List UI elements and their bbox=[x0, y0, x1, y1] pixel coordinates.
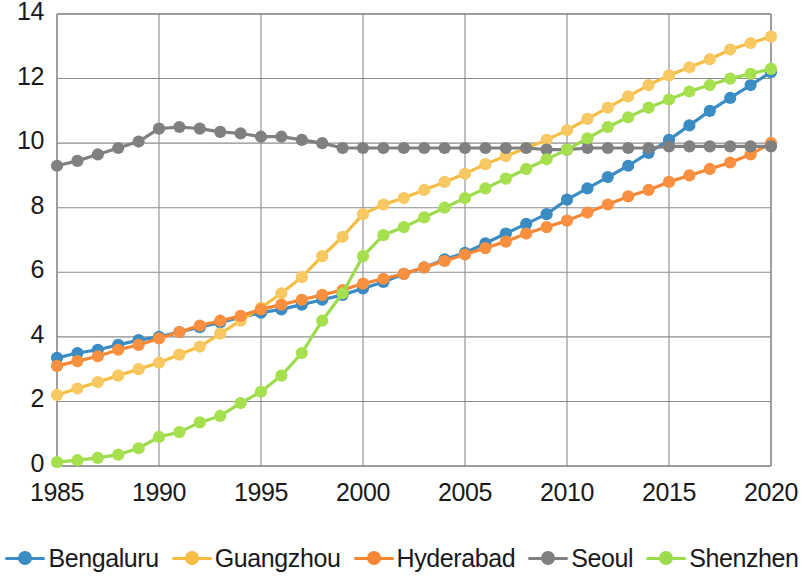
data-point bbox=[377, 229, 389, 241]
data-point bbox=[153, 123, 165, 135]
legend-label: Bengaluru bbox=[48, 544, 158, 573]
legend-item-seoul[interactable]: Seoul bbox=[528, 544, 633, 573]
data-point bbox=[643, 142, 655, 154]
y-tick-label: 0 bbox=[0, 449, 44, 478]
data-point bbox=[418, 261, 430, 273]
legend-item-shenzhen[interactable]: Shenzhen bbox=[646, 544, 798, 573]
data-point bbox=[459, 142, 471, 154]
data-point bbox=[51, 389, 63, 401]
data-point bbox=[745, 79, 757, 91]
data-point bbox=[602, 198, 614, 210]
data-point bbox=[541, 221, 553, 233]
data-point bbox=[51, 456, 63, 468]
data-point bbox=[275, 370, 287, 382]
data-point bbox=[765, 140, 777, 152]
data-point bbox=[153, 332, 165, 344]
data-point bbox=[520, 163, 532, 175]
series-line bbox=[57, 72, 771, 358]
data-point bbox=[377, 273, 389, 285]
data-point bbox=[377, 142, 389, 154]
data-point bbox=[418, 142, 430, 154]
data-point bbox=[194, 416, 206, 428]
legend-dot bbox=[659, 551, 673, 565]
data-point bbox=[479, 158, 491, 170]
data-point bbox=[765, 63, 777, 75]
data-point bbox=[173, 349, 185, 361]
data-point bbox=[704, 140, 716, 152]
data-point bbox=[255, 131, 267, 143]
data-point bbox=[296, 347, 308, 359]
data-point bbox=[663, 69, 675, 81]
series-seoul bbox=[51, 121, 777, 172]
data-point bbox=[439, 202, 451, 214]
data-point bbox=[602, 102, 614, 114]
data-point bbox=[275, 287, 287, 299]
data-point bbox=[683, 61, 695, 73]
y-tick-label: 4 bbox=[0, 320, 44, 349]
data-point bbox=[683, 85, 695, 97]
data-point bbox=[459, 192, 471, 204]
data-point bbox=[92, 376, 104, 388]
data-point bbox=[643, 184, 655, 196]
data-point bbox=[439, 255, 451, 267]
data-point bbox=[765, 30, 777, 42]
data-point bbox=[745, 68, 757, 80]
data-point bbox=[255, 386, 267, 398]
legend-item-guangzhou[interactable]: Guangzhou bbox=[172, 544, 341, 573]
data-point bbox=[418, 211, 430, 223]
data-point bbox=[194, 319, 206, 331]
series-line bbox=[57, 143, 771, 366]
data-point bbox=[92, 148, 104, 160]
data-point bbox=[622, 111, 634, 123]
x-tick-label: 2015 bbox=[624, 478, 714, 507]
data-point bbox=[337, 142, 349, 154]
data-point bbox=[51, 160, 63, 172]
legend-dot bbox=[367, 551, 381, 565]
data-point bbox=[479, 142, 491, 154]
data-point bbox=[663, 93, 675, 105]
data-point bbox=[214, 410, 226, 422]
data-point bbox=[214, 126, 226, 138]
data-point bbox=[377, 198, 389, 210]
data-point bbox=[561, 124, 573, 136]
data-point bbox=[316, 315, 328, 327]
legend-item-hyderabad[interactable]: Hyderabad bbox=[354, 544, 516, 573]
legend-marker-icon bbox=[528, 548, 568, 568]
data-point bbox=[112, 344, 124, 356]
data-point bbox=[51, 360, 63, 372]
data-point bbox=[602, 142, 614, 154]
data-point bbox=[112, 370, 124, 382]
data-point bbox=[724, 72, 736, 84]
data-point bbox=[683, 140, 695, 152]
chart-legend: BengaluruGuangzhouHyderabadSeoulShenzhen bbox=[0, 538, 804, 578]
legend-marker-icon bbox=[646, 548, 686, 568]
data-point bbox=[581, 113, 593, 125]
y-tick-label: 6 bbox=[0, 255, 44, 284]
data-point bbox=[622, 90, 634, 102]
data-point bbox=[133, 339, 145, 351]
data-point bbox=[173, 426, 185, 438]
y-tick-label: 2 bbox=[0, 384, 44, 413]
data-point bbox=[724, 156, 736, 168]
data-point bbox=[296, 271, 308, 283]
data-point bbox=[541, 208, 553, 220]
data-point bbox=[133, 442, 145, 454]
data-point bbox=[316, 137, 328, 149]
legend-marker-icon bbox=[172, 548, 212, 568]
legend-dot bbox=[185, 551, 199, 565]
data-point bbox=[704, 105, 716, 117]
series-bengaluru bbox=[51, 66, 777, 364]
data-point bbox=[561, 194, 573, 206]
data-point bbox=[71, 382, 83, 394]
data-point bbox=[663, 176, 675, 188]
legend-item-bengaluru[interactable]: Bengaluru bbox=[5, 544, 158, 573]
data-point bbox=[357, 277, 369, 289]
data-point bbox=[724, 43, 736, 55]
data-point bbox=[92, 452, 104, 464]
data-point bbox=[112, 449, 124, 461]
data-point bbox=[71, 155, 83, 167]
x-tick-label: 2020 bbox=[726, 478, 804, 507]
x-tick-label: 2010 bbox=[522, 478, 612, 507]
grid-lines bbox=[57, 14, 771, 466]
data-point bbox=[459, 248, 471, 260]
